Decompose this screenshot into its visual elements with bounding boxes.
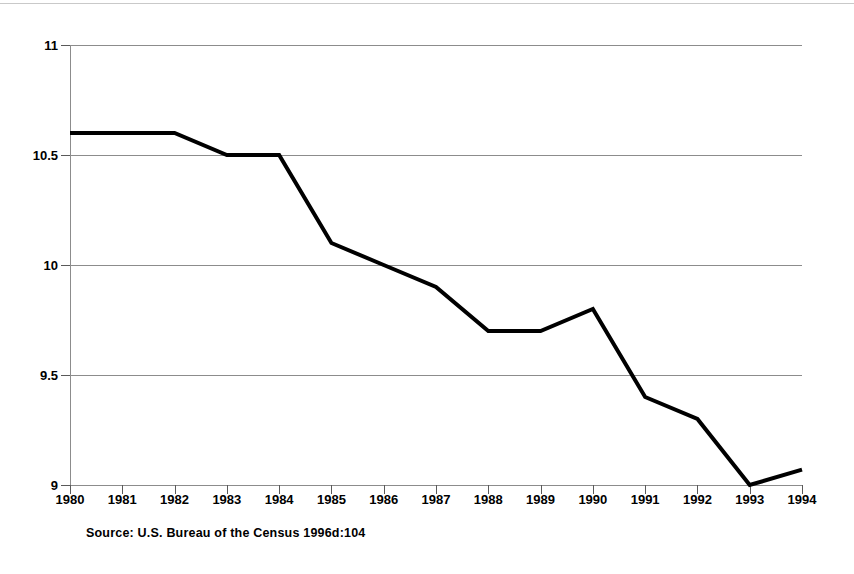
y-axis-tick-label: 10 <box>44 258 58 273</box>
x-axis-tick-label: 1991 <box>631 492 660 507</box>
x-axis-tick-label: 1993 <box>735 492 764 507</box>
gridline-holder <box>70 45 802 485</box>
gridline-y <box>70 45 802 46</box>
x-axis-tick-label: 1980 <box>56 492 85 507</box>
x-axis-tick-label: 1986 <box>369 492 398 507</box>
y-axis-tick-label: 9.5 <box>40 368 58 383</box>
x-axis-tick-label: 1990 <box>578 492 607 507</box>
gridline-holder <box>70 45 802 485</box>
line-chart-figure: 99.51010.511 198019811982198319841985198… <box>0 0 854 574</box>
y-axis-tick <box>61 155 70 156</box>
series-line-0 <box>70 133 802 485</box>
y-axis-tick <box>61 485 70 486</box>
x-axis-tick-label: 1992 <box>683 492 712 507</box>
gridline-holder <box>70 45 802 485</box>
source-note: Source: U.S. Bureau of the Census 1996d:… <box>86 526 366 540</box>
y-axis-tick-label: 9 <box>51 478 58 493</box>
gridline-holder <box>70 45 802 485</box>
x-axis-tick-label: 1988 <box>474 492 503 507</box>
gridline-y <box>70 265 802 266</box>
y-axis-tick <box>61 265 70 266</box>
gridline-holder <box>70 45 802 485</box>
data-series-layer <box>0 0 854 574</box>
y-axis-tick <box>61 45 70 46</box>
x-axis-tick-label: 1994 <box>788 492 817 507</box>
x-axis-tick-label: 1989 <box>526 492 555 507</box>
y-axis-tick-label: 11 <box>44 38 58 53</box>
gridline-y <box>70 155 802 156</box>
gridline-y <box>70 375 802 376</box>
x-axis-tick-label: 1984 <box>265 492 294 507</box>
x-axis-tick-label: 1981 <box>108 492 137 507</box>
y-axis-tick <box>61 375 70 376</box>
x-axis-tick-label: 1985 <box>317 492 346 507</box>
x-axis-tick-label: 1987 <box>422 492 451 507</box>
x-axis-tick-label: 1982 <box>160 492 189 507</box>
y-axis-line <box>70 45 71 487</box>
y-axis-tick-label: 10.5 <box>33 148 58 163</box>
x-axis-tick-label: 1983 <box>212 492 241 507</box>
